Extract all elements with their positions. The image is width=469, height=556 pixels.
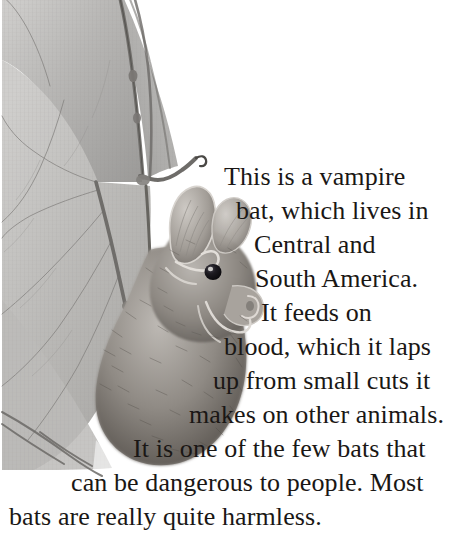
storybook-page: This is a vampire bat, which lives in Ce… [0,0,469,556]
wing-membrane-upper [2,0,142,182]
caption-text: This is a vampire bat, which lives in Ce… [0,160,469,534]
caption-line-7: up from small cuts it [0,364,469,398]
caption-line-4: South America. [0,262,469,296]
caption-line-10: can be dangerous to people. Most [0,466,469,500]
wing-finger-bones-upper [118,0,170,178]
caption-line-8: makes on other animals. [0,398,469,432]
caption-line-2: bat, which lives in [0,194,469,228]
wing-membrane-outer [116,0,178,178]
caption-line-3: Central and [0,228,469,262]
caption-line-5: It feeds on [0,296,469,330]
caption-line-9: It is one of the few bats that [0,432,469,466]
caption-line-1: This is a vampire [0,160,469,194]
caption-line-6: blood, which it laps [0,330,469,364]
caption-line-11: bats are really quite harmless. [0,500,469,534]
